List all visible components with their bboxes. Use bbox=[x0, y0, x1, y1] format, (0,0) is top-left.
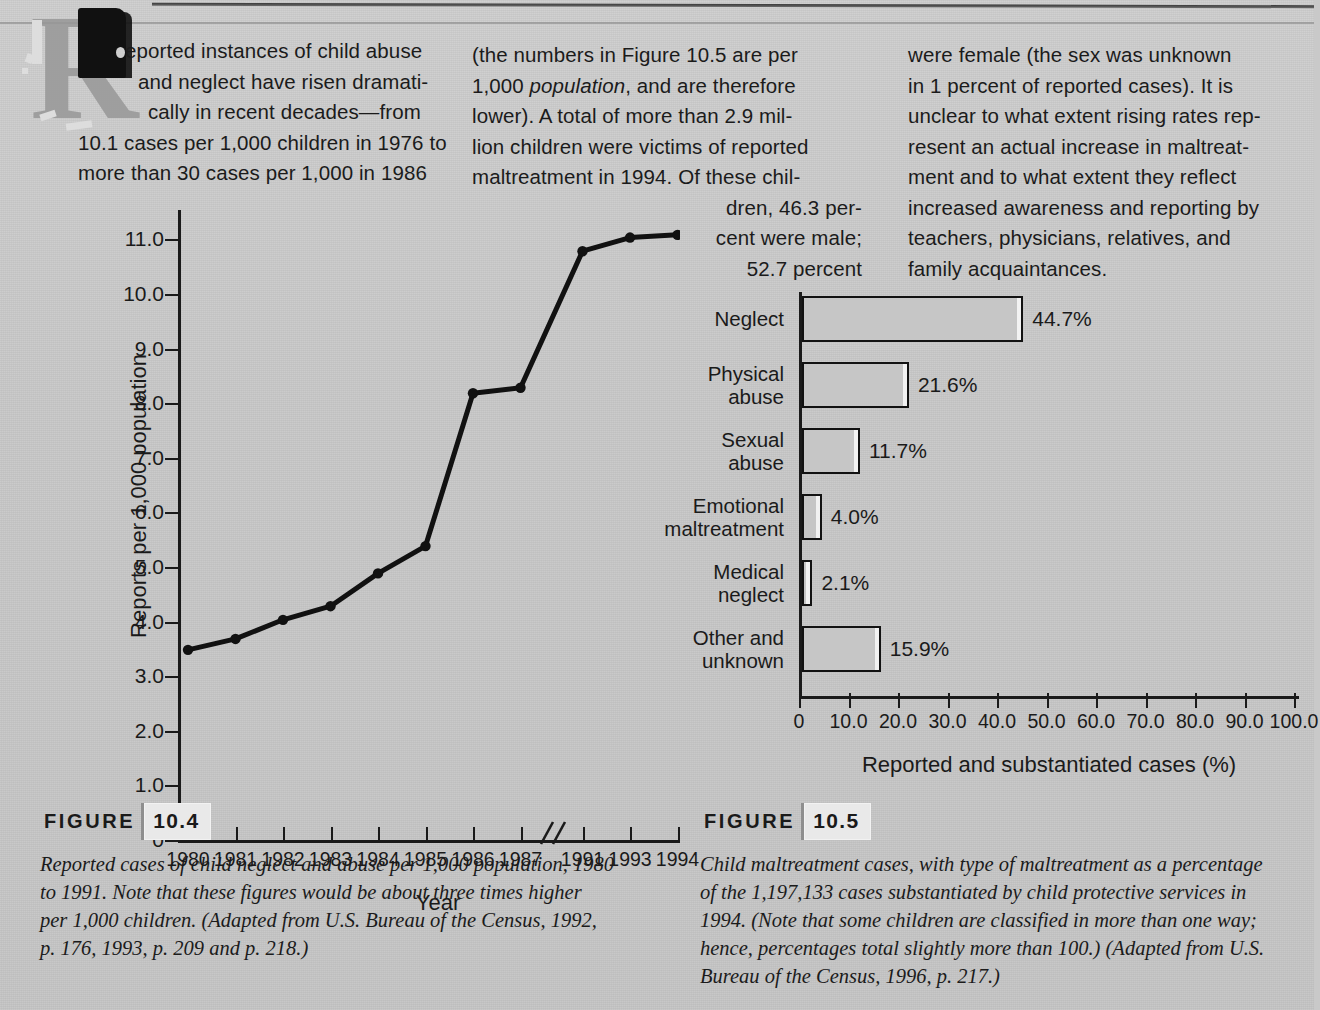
text-line: resent an actual increase in maltreat- bbox=[908, 132, 1308, 163]
y-axis-tick bbox=[165, 403, 178, 405]
value-axis-tick-label: 20.0 bbox=[879, 710, 917, 733]
text-line: family acquaintances. bbox=[908, 254, 1308, 285]
caption-line: Child maltreatment cases, with type of m… bbox=[700, 850, 1320, 878]
y-axis-tick bbox=[165, 785, 178, 787]
bar[interactable] bbox=[802, 428, 860, 474]
bar-value-label: 44.7% bbox=[1032, 307, 1092, 331]
bar-category-line: abuse bbox=[624, 451, 784, 474]
bar[interactable] bbox=[802, 560, 812, 606]
y-axis-tick-label: 5.0 bbox=[104, 555, 164, 579]
bar-category-label: Sexualabuse bbox=[624, 428, 784, 474]
value-axis-tick bbox=[1047, 693, 1049, 708]
x-axis-title: Reported and substantiated cases (%) bbox=[799, 752, 1299, 778]
bar-category-line: abuse bbox=[624, 385, 784, 408]
value-axis-tick-label: 60.0 bbox=[1077, 710, 1115, 733]
x-axis-tick bbox=[521, 827, 523, 843]
text-line: were female (the sex was unknown bbox=[908, 40, 1308, 71]
y-axis-line bbox=[178, 210, 181, 842]
caption-line: Bureau of the Census, 1996, p. 217.) bbox=[700, 962, 1320, 990]
value-axis-tick bbox=[1146, 693, 1148, 708]
text-line: cally in recent decades—from bbox=[148, 97, 438, 128]
caption-line: to 1991. Note that these figures would b… bbox=[40, 878, 660, 906]
y-axis-tick bbox=[165, 512, 178, 514]
x-axis-tick bbox=[630, 827, 632, 843]
data-point-marker bbox=[325, 601, 335, 611]
bar-category-label: Medicalneglect bbox=[624, 560, 784, 606]
value-axis-tick bbox=[948, 693, 950, 708]
x-axis-tick bbox=[473, 827, 475, 843]
caption-line: Reported cases of child neglect and abus… bbox=[40, 850, 660, 878]
data-point-marker bbox=[230, 634, 240, 644]
text-line: maltreatment in 1994. Of these chil- bbox=[472, 162, 862, 193]
caption-line: p. 176, 1993, p. 209 and p. 218.) bbox=[40, 934, 660, 962]
x-axis-tick bbox=[283, 827, 285, 843]
y-axis-tick-label: 1.0 bbox=[104, 773, 164, 797]
bar[interactable] bbox=[802, 296, 1023, 342]
value-axis-tick bbox=[1245, 693, 1247, 708]
y-axis-tick-label: 10.0 bbox=[104, 282, 164, 306]
text-line: more than 30 cases per 1,000 in 1986 bbox=[78, 158, 438, 189]
bar-category-line: Neglect bbox=[624, 307, 784, 330]
axis-break-icon bbox=[537, 820, 571, 846]
y-axis-tick-label: 4.0 bbox=[104, 610, 164, 634]
value-axis-line bbox=[799, 696, 1299, 699]
x-axis-tick bbox=[426, 827, 428, 843]
y-axis-tick-label: 2.0 bbox=[104, 719, 164, 743]
x-axis-tick bbox=[331, 827, 333, 843]
figure-tag-word: FIGURE bbox=[44, 810, 144, 833]
value-axis-tick-label: 10.0 bbox=[830, 710, 868, 733]
bar-row: Sexualabuse11.7% bbox=[700, 428, 1300, 474]
y-axis-tick-label: 9.0 bbox=[104, 337, 164, 361]
bar-row: Medicalneglect2.1% bbox=[700, 560, 1300, 606]
bar-category-line: Other and bbox=[624, 626, 784, 649]
figure-10-5-tag: FIGURE 10.5 bbox=[704, 800, 871, 842]
bar[interactable] bbox=[802, 362, 909, 408]
x-axis-tick-label: 1994 bbox=[656, 848, 699, 871]
category-axis-line bbox=[799, 292, 802, 696]
data-point-marker bbox=[183, 645, 193, 655]
bar-category-line: maltreatment bbox=[624, 517, 784, 540]
text-line-with-italic: 1,000 population, and are therefore bbox=[472, 71, 862, 102]
y-axis-tick-label: 7.0 bbox=[104, 446, 164, 470]
bar[interactable] bbox=[802, 494, 822, 540]
y-axis-tick bbox=[165, 294, 178, 296]
text-line: and neglect have risen dramati- bbox=[138, 67, 438, 98]
value-axis-tick-label: 40.0 bbox=[978, 710, 1016, 733]
data-point-marker bbox=[625, 232, 635, 242]
y-axis-tick bbox=[165, 239, 178, 241]
y-axis-tick bbox=[165, 731, 178, 733]
value-axis-tick-label: 50.0 bbox=[1028, 710, 1066, 733]
y-axis-tick-label: 8.0 bbox=[104, 391, 164, 415]
italic-term: population bbox=[530, 74, 626, 97]
bar-category-line: unknown bbox=[624, 649, 784, 672]
figure-tag-number: 10.4 bbox=[144, 803, 210, 840]
figure-10-5-bar-chart: Neglect44.7%Physicalabuse21.6%Sexualabus… bbox=[700, 290, 1310, 790]
page-top-rule bbox=[152, 3, 1314, 8]
x-axis-tick bbox=[236, 827, 238, 843]
figure-tag-word: FIGURE bbox=[704, 810, 804, 833]
value-axis-tick bbox=[1294, 693, 1296, 708]
bar-value-label: 21.6% bbox=[918, 373, 978, 397]
bar-category-label: Other andunknown bbox=[624, 626, 784, 672]
value-axis-tick bbox=[799, 693, 801, 708]
value-axis-tick bbox=[1096, 693, 1098, 708]
y-axis-tick-label: 6.0 bbox=[104, 500, 164, 524]
scan-fleck bbox=[32, 20, 42, 64]
value-axis-tick bbox=[1195, 693, 1197, 708]
x-axis-tick bbox=[583, 827, 585, 843]
bar-category-label: Physicalabuse bbox=[624, 362, 784, 408]
figure-10-4-tag: FIGURE 10.4 bbox=[44, 800, 211, 842]
data-point-marker bbox=[420, 541, 430, 551]
x-axis-end-cap bbox=[678, 827, 680, 843]
page-top-rule-secondary bbox=[0, 22, 1314, 24]
text-line: unclear to what extent rising rates rep- bbox=[908, 101, 1308, 132]
bar-value-label: 4.0% bbox=[831, 505, 879, 529]
bar[interactable] bbox=[802, 626, 881, 672]
bar-category-line: Emotional bbox=[624, 494, 784, 517]
data-point-marker bbox=[515, 383, 525, 393]
bar-category-line: Sexual bbox=[624, 428, 784, 451]
text-line: teachers, physicians, relatives, and bbox=[908, 223, 1308, 254]
x-axis-line bbox=[178, 840, 680, 843]
figure-10-4-caption: Reported cases of child neglect and abus… bbox=[40, 850, 660, 962]
